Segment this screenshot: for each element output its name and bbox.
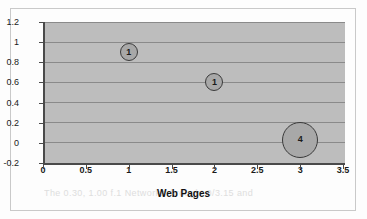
y-axis-tick-mark	[39, 143, 43, 144]
x-axis-tick-mark	[300, 165, 301, 169]
y-axis-tick-mark	[39, 22, 43, 23]
gridline-y	[45, 22, 345, 23]
y-axis-tick-label: 0.6	[0, 77, 19, 87]
chart-figure: The 0.30, 1.00 f.1 Networks' brought 0/3…	[0, 0, 367, 219]
bubble-data-point: 4	[282, 122, 318, 158]
x-axis-tick-mark	[343, 165, 344, 169]
x-axis-title: Web Pages	[0, 188, 367, 199]
bubble-data-point: 1	[205, 73, 223, 91]
bubble-value-label: 1	[126, 48, 131, 57]
bubble-value-label: 4	[298, 135, 303, 144]
gridline-y	[45, 62, 345, 63]
bubble-data-point: 1	[120, 43, 138, 61]
y-axis-tick-label: 0.4	[0, 98, 19, 108]
y-axis-tick-label: 0	[0, 138, 19, 148]
gridline-y	[45, 102, 345, 103]
y-axis-tick-mark	[39, 42, 43, 43]
x-axis-tick-mark	[257, 165, 258, 169]
y-axis-tick-mark	[39, 82, 43, 83]
y-axis-tick-mark	[39, 103, 43, 104]
y-axis-tick-label: 0.2	[0, 118, 19, 128]
y-axis-tick-mark	[39, 123, 43, 124]
y-axis-tick-label: -0.2	[0, 158, 19, 168]
x-axis-tick-mark	[214, 165, 215, 169]
x-axis-tick-mark	[172, 165, 173, 169]
bubble-value-label: 1	[212, 78, 217, 87]
x-axis-tick-mark	[43, 165, 44, 169]
y-axis-tick-label: 1.2	[0, 17, 19, 27]
gridline-y	[45, 42, 345, 43]
y-axis-tick-mark	[39, 163, 43, 164]
x-axis-tick-mark	[129, 165, 130, 169]
gridline-y	[45, 82, 345, 83]
y-axis-tick-mark	[39, 62, 43, 63]
x-axis-tick-mark	[86, 165, 87, 169]
y-axis-tick-label: 1	[0, 37, 19, 47]
y-axis-tick-label: 0.8	[0, 57, 19, 67]
